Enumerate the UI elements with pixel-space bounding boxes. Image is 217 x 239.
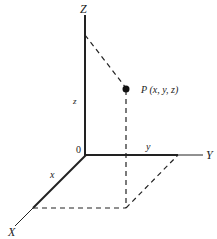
y-component-label: y: [145, 141, 151, 152]
x-axis-segment: [33, 155, 86, 208]
point-p-label: P (x, y, z): [140, 84, 179, 96]
x-component-label: x: [49, 169, 55, 180]
projection-z-to-p: [85, 35, 126, 88]
x-axis-label: X: [7, 225, 16, 239]
z-axis-label: Z: [80, 2, 87, 16]
z-component-label: z: [72, 96, 77, 106]
coordinate-diagram: Z Y X 0 z y x P (x, y, z): [0, 0, 217, 239]
projection-base-to-y: [126, 155, 178, 208]
y-axis-label: Y: [206, 148, 214, 162]
origin-label: 0: [76, 144, 81, 155]
x-axis-extension: [15, 208, 33, 226]
point-p-marker: [123, 86, 130, 93]
